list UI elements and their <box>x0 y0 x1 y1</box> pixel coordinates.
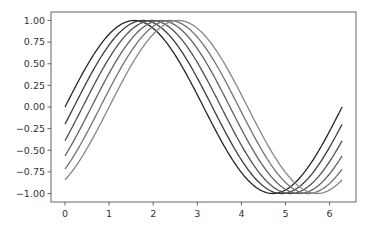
series-line-0 <box>65 21 342 194</box>
x-tick-label: 5 <box>282 208 288 219</box>
y-tick-label: 0.25 <box>24 80 45 91</box>
y-tick-label: 0.00 <box>24 101 45 112</box>
x-tick-label: 0 <box>62 208 68 219</box>
y-axis: 1.000.750.500.250.00−0.25−0.50−0.75−1.00 <box>16 15 51 199</box>
y-tick-label: −1.00 <box>16 188 45 199</box>
x-tick-label: 4 <box>238 208 244 219</box>
y-tick-label: −0.25 <box>16 123 45 134</box>
x-tick-label: 1 <box>106 208 112 219</box>
y-tick-label: −0.50 <box>16 145 45 156</box>
line-chart: 0123456 1.000.750.500.250.00−0.25−0.50−0… <box>0 0 374 227</box>
y-tick-label: 0.50 <box>24 58 45 69</box>
y-tick-label: −0.75 <box>16 166 45 177</box>
x-tick-label: 6 <box>327 208 333 219</box>
series-lines <box>65 21 342 194</box>
y-tick-label: 0.75 <box>24 36 45 47</box>
x-axis: 0123456 <box>62 202 333 219</box>
x-tick-label: 3 <box>194 208 200 219</box>
x-tick-label: 2 <box>150 208 156 219</box>
y-tick-label: 1.00 <box>24 15 45 26</box>
